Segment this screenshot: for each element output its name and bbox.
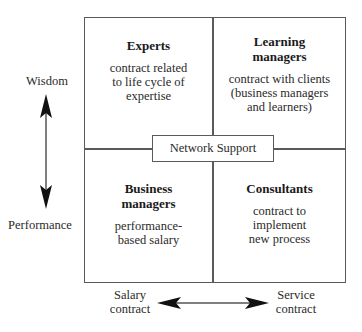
quadrant-description: contract relatedto life cycle ofexpertis…: [86, 61, 211, 103]
double-headed-vertical-arrow-icon: [40, 94, 52, 209]
axis-label-performance: Performance: [0, 218, 80, 232]
quadrant-title: Learningmanagers: [214, 34, 345, 64]
axis-label-salary-contract: Salarycontract: [100, 288, 160, 316]
axis-label-service-contract: Servicecontract: [265, 288, 327, 316]
quadrant-experts: Experts contract relatedto life cycle of…: [86, 38, 211, 103]
quadrant-title: Consultants: [214, 181, 345, 196]
quadrant-title: Businessmanagers: [86, 181, 211, 211]
quadrant-business-managers: Businessmanagers performance-based salar…: [86, 181, 211, 247]
quadrant-diagram: Experts contract relatedto life cycle of…: [0, 0, 362, 332]
axis-label-wisdom: Wisdom: [24, 74, 70, 88]
network-support-box: Network Support: [152, 135, 274, 162]
quadrant-learning-managers: Learningmanagers contract with clients(b…: [214, 34, 345, 114]
quadrant-consultants: Consultants contract toimplementnew proc…: [214, 181, 345, 246]
quadrant-description: contract toimplementnew process: [214, 204, 345, 246]
quadrant-description: contract with clients(business managersa…: [214, 72, 345, 114]
network-support-label: Network Support: [170, 141, 256, 156]
quadrant-title: Experts: [86, 38, 211, 53]
quadrant-description: performance-based salary: [86, 219, 211, 247]
double-headed-horizontal-arrow-icon: [157, 297, 269, 309]
